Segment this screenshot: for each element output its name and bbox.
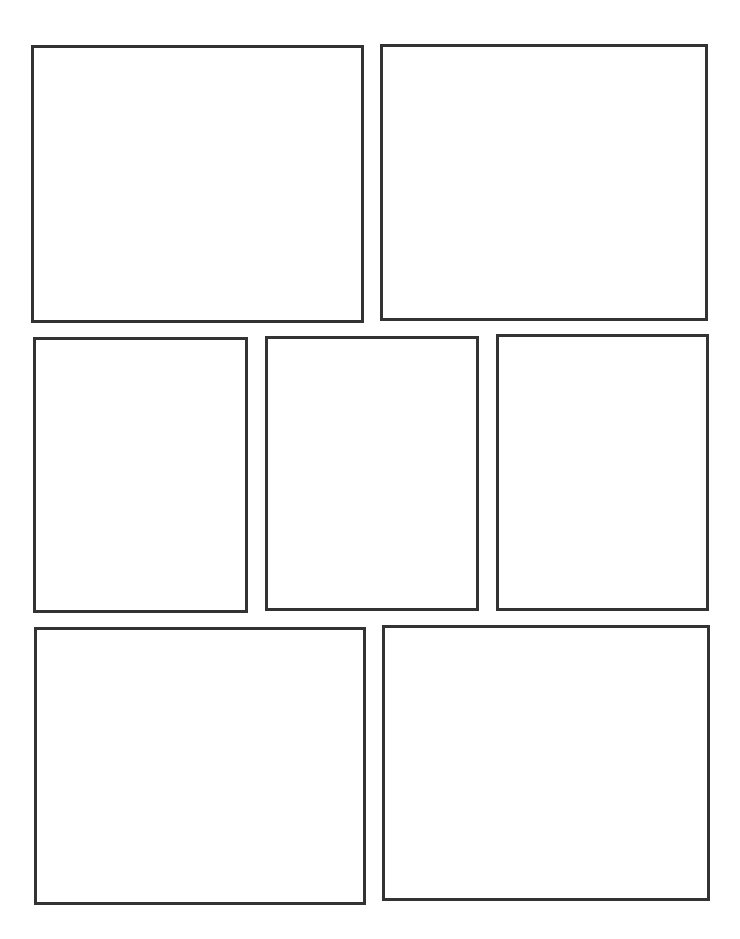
panel-7 — [382, 625, 710, 901]
panel-1 — [31, 45, 364, 323]
panel-5 — [496, 334, 709, 611]
panel-6 — [34, 627, 366, 905]
panel-3 — [33, 337, 248, 613]
panel-2 — [380, 44, 708, 321]
comic-page — [0, 0, 740, 939]
panel-4 — [265, 336, 479, 611]
